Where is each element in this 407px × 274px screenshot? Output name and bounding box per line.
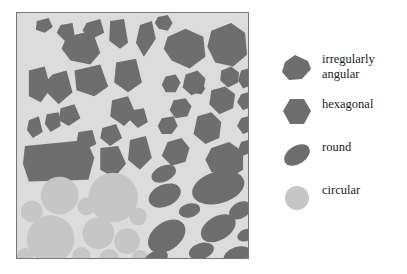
irregular-polygon-swatch	[278, 52, 316, 86]
figure-root: irregularly angular hexagonal round circ…	[0, 0, 407, 274]
hexagon-swatch	[278, 95, 316, 129]
panel-illustration	[17, 13, 248, 258]
legend-label-hexagonal: hexagonal	[322, 95, 373, 112]
legend-item-hexagonal: hexagonal	[278, 95, 404, 129]
circle-swatch	[278, 181, 316, 215]
ellipse-swatch	[278, 138, 316, 172]
legend-label-round: round	[322, 138, 351, 155]
legend-label-circular: circular	[322, 181, 360, 198]
legend-label-irregularly-angular: irregularly angular	[322, 52, 375, 81]
legend-item-circular: circular	[278, 181, 404, 215]
shape-legend: irregularly angular hexagonal round circ…	[278, 52, 404, 224]
shape-classification-panel	[16, 12, 249, 259]
legend-item-round: round	[278, 138, 404, 172]
legend-item-irregularly-angular: irregularly angular	[278, 52, 404, 86]
